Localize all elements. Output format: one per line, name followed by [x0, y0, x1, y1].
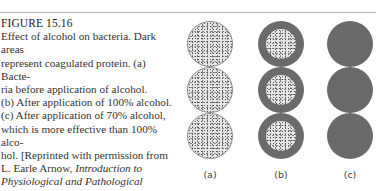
bacterium-a-3	[187, 113, 233, 159]
panel-label-a: (a)	[187, 169, 233, 180]
panel-label-b: (b)	[258, 169, 304, 180]
caption-line: Effect of alcohol on bacteria. Dark area…	[1, 30, 156, 55]
caption-line: represent coagulated protein. (a) Bacte-	[1, 57, 146, 82]
bacterium-b-1	[258, 21, 304, 67]
caption-line: L. Earle Arnow,	[1, 162, 75, 174]
uncoagulated-core	[266, 29, 296, 59]
caption-line: (c) After application of 70% alcohol,	[1, 109, 166, 121]
top-rule	[0, 12, 376, 13]
citation-title-cont: Physiological and Pathological Chemistry…	[1, 175, 143, 191]
caption-line: (b) After application of 100% alcohol.	[1, 96, 172, 108]
caption-line: hol. [Reprinted with permission from	[1, 149, 168, 161]
bacterium-a-2	[187, 67, 233, 113]
bacterium-b-3	[258, 113, 304, 159]
caption-line: which is more effective than 100% alco-	[1, 123, 157, 148]
figure-caption: FIGURE 15.16 Effect of alcohol on bacter…	[1, 17, 177, 191]
uncoagulated-core	[266, 75, 296, 105]
panel-label-c: (c)	[327, 169, 373, 180]
uncoagulated-core	[266, 121, 296, 151]
bacterium-c-1	[327, 21, 373, 67]
bacterium-a-1	[187, 21, 233, 67]
bacterium-b-2	[258, 67, 304, 113]
caption-line: ria before application of alcohol.	[1, 83, 147, 95]
bacterium-c-2	[327, 67, 373, 113]
citation-title: Introduction to	[75, 162, 142, 174]
bacterium-c-3	[327, 113, 373, 159]
figure-number: FIGURE 15.16	[1, 17, 177, 30]
